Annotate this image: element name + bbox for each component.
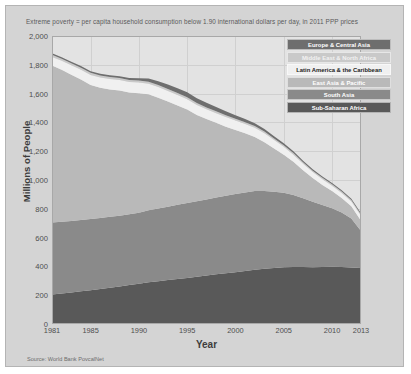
x-axis-tick-label: 2013 [353, 326, 369, 335]
x-axis-ticks: 19811985199019952000200520102013 [52, 326, 361, 340]
y-axis-tick-label: 1,800 [10, 61, 48, 70]
chart-figure: Extreme poverty = per capita household c… [5, 5, 404, 367]
y-axis-tick-label: 0 [10, 320, 48, 329]
y-axis-tick-label: 200 [10, 291, 48, 300]
legend-item[interactable]: Sub-Saharan Africa [287, 102, 391, 113]
source-caption: Source: World Bank PovcalNet [27, 356, 104, 362]
y-axis-tick-label: 2,000 [10, 32, 48, 41]
x-axis-tick-label: 1985 [82, 326, 98, 335]
x-axis-tick-label: 2005 [276, 326, 292, 335]
legend-item[interactable]: South Asia [287, 89, 391, 100]
x-axis-tick-label: 1990 [131, 326, 147, 335]
legend-item[interactable]: Latin America & the Caribbean [287, 64, 391, 75]
y-axis-tick-label: 400 [10, 262, 48, 271]
x-axis-label: Year [52, 339, 361, 350]
y-axis-label: Millions of People [21, 92, 32, 232]
chart-title: Extreme poverty = per capita household c… [26, 18, 391, 25]
legend-item[interactable]: East Asia & Pacific [287, 77, 391, 88]
x-axis-tick-label: 2000 [227, 326, 243, 335]
legend-item[interactable]: Middle East & North Africa [287, 52, 391, 63]
x-axis-tick-label: 1995 [179, 326, 195, 335]
legend-item[interactable]: Europe & Central Asia [287, 39, 391, 50]
x-axis-tick-label: 1981 [44, 326, 60, 335]
y-axis-tick-label: 600 [10, 234, 48, 243]
x-axis-tick-label: 2010 [324, 326, 340, 335]
chart-legend: Europe & Central AsiaMiddle East & North… [287, 39, 391, 114]
